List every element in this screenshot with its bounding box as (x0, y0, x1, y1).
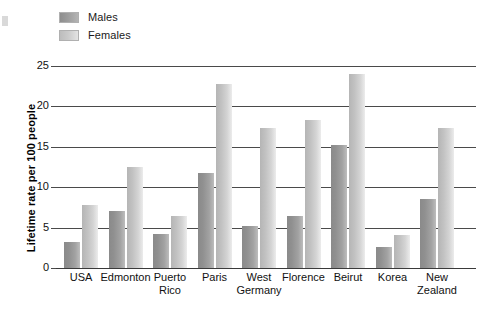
bar-males-edmonton (109, 211, 125, 268)
plot-area: 0510152025 (56, 66, 476, 268)
bar-females-beirut (349, 74, 365, 268)
bar-males-new-zealand (420, 199, 436, 268)
bar-group (195, 66, 235, 268)
legend-swatch-females-icon (59, 30, 79, 41)
x-axis-category-labels: USAEdmontonPuertoRicoParisWestGermanyFlo… (56, 271, 476, 309)
y-axis-title: Lifetime rate per 100 people (25, 83, 37, 273)
bar-males-florence (287, 216, 303, 268)
chart-legend: Males Females (59, 8, 209, 44)
bar-females-puerto-rico (171, 216, 187, 268)
bar-group (284, 66, 324, 268)
bar-group (417, 66, 457, 268)
legend-item-males: Males (59, 8, 209, 26)
bar-females-west-germany (260, 128, 276, 268)
scan-artifact (2, 16, 8, 26)
x-axis-label-line2: Germany (219, 284, 299, 297)
legend-label-females: Females (88, 29, 131, 41)
bar-group (373, 66, 413, 268)
bar-group (328, 66, 368, 268)
bar-group (239, 66, 279, 268)
bar-chart: Males Females Lifetime rate per 100 peop… (0, 0, 492, 309)
bar-males-west-germany (242, 226, 258, 268)
y-tick-label-20: 20 (37, 99, 49, 111)
bar-males-usa (64, 242, 80, 268)
x-axis-label-line1: New (426, 271, 448, 283)
bar-females-paris (216, 84, 232, 268)
x-axis-label-new-zealand: NewZealand (397, 271, 477, 297)
gridline-0 (56, 268, 476, 269)
bar-males-beirut (331, 145, 347, 268)
x-axis-label-line2: Zealand (397, 284, 477, 297)
bar-females-edmonton (127, 167, 143, 268)
y-tick-label-15: 15 (37, 140, 49, 152)
x-axis-label-line2: Rico (130, 284, 210, 297)
legend-swatch-males-icon (59, 12, 79, 23)
bars-layer (56, 66, 476, 268)
bar-males-korea (376, 247, 392, 268)
bar-males-puerto-rico (153, 234, 169, 268)
y-tick-label-10: 10 (37, 180, 49, 192)
bar-females-korea (394, 235, 410, 268)
legend-label-males: Males (88, 11, 118, 23)
bar-group (150, 66, 190, 268)
bar-females-usa (82, 205, 98, 268)
legend-item-females: Females (59, 26, 209, 44)
bar-group (61, 66, 101, 268)
y-tick-dash-0 (51, 268, 56, 269)
bar-males-paris (198, 173, 214, 268)
y-tick-label-25: 25 (37, 59, 49, 71)
bar-females-new-zealand (438, 128, 454, 268)
y-tick-label-5: 5 (43, 221, 49, 233)
bar-females-florence (305, 120, 321, 268)
bar-group (106, 66, 146, 268)
